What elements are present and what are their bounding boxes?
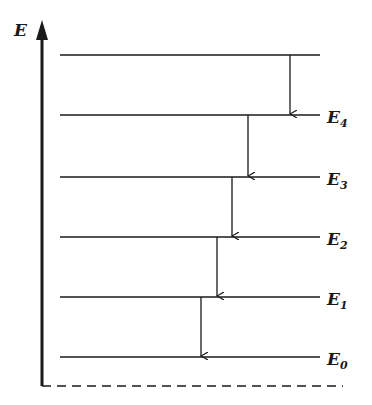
level-label-E0: E0 [326,349,348,372]
level-label-E4: E4 [326,107,348,130]
energy-level-diagram: E E4E3E2E1E0 [0,0,372,405]
energy-axis-label: E [13,20,28,40]
level-label-E1: E1 [326,289,348,312]
level-label-E3: E3 [326,169,348,192]
energy-axis: E [13,20,48,386]
axis-arrowhead-icon [36,20,48,40]
level-label-E2: E2 [326,229,348,252]
